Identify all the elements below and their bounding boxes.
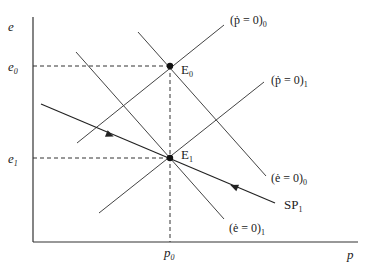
pdot0-label: (ṗ = 0)0 [230,13,267,29]
phase-diagram: e p e0 e1 p0 E0 E1 (ṗ = 0)0 (ṗ = 0)1 (ė … [0,0,371,274]
guide-lines [33,66,170,242]
e1-tick-label: e1 [8,151,18,168]
e0-tick-label: e0 [8,59,18,76]
edot0-label: (ė = 0)0 [271,171,307,187]
edot0-curve [138,32,266,176]
x-axis-label: p [346,247,354,262]
sp1-saddle-path [41,104,275,203]
y-axis-label: e [8,19,14,34]
edot1-label: (ė = 0)1 [229,221,265,237]
pdot1-label: (ṗ = 0)1 [271,73,308,89]
equilibrium-point-e0 [167,63,173,69]
pdot0-curve [77,25,224,143]
edot1-curve [76,52,224,219]
axes [33,17,358,242]
e0-point-label: E0 [181,62,193,79]
equilibrium-point-e1 [167,155,173,161]
p0-tick-label: p0 [163,245,175,262]
e1-point-label: E1 [181,147,193,164]
arrow-icon [229,182,239,192]
sp1-label: SP1 [284,197,302,214]
